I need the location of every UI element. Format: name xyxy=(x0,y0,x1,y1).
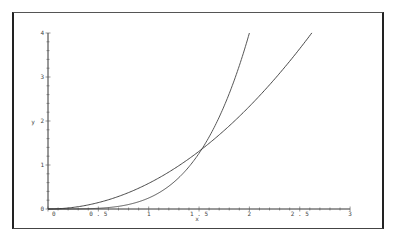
x-tick-label: 0 . 5 xyxy=(89,210,107,217)
y-tick-label: 1 xyxy=(40,161,44,168)
x-tick-label: 2 xyxy=(248,210,252,217)
line-chart: 00 . 511 . 522 . 5301234 x y xyxy=(0,0,396,241)
y-tick-label: 3 xyxy=(40,73,44,80)
y-tick-label: 4 xyxy=(40,29,44,36)
curve-b xyxy=(48,33,312,209)
x-tick-label: 1 . 5 xyxy=(190,210,208,217)
y-tick-label: 2 xyxy=(40,117,44,124)
x-tick-label: 2 . 5 xyxy=(291,210,309,217)
y-tick-label: 0 xyxy=(40,205,44,212)
curves xyxy=(48,33,312,209)
x-tick-label: 3 xyxy=(348,210,352,217)
x-axis-label: x xyxy=(195,215,199,222)
curve-a xyxy=(48,33,249,209)
x-tick-label: 0 xyxy=(52,210,56,217)
y-axis-label: y xyxy=(31,118,35,126)
x-tick-label: 1 xyxy=(147,210,151,217)
axes: 00 . 511 . 522 . 5301234 xyxy=(40,29,352,217)
